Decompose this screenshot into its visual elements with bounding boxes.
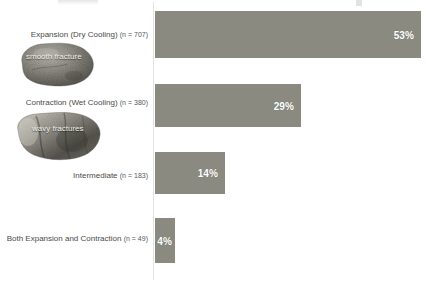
bar-chart: 53% 29% 14% 4% Expansion (Dry Cooling) (… [0,0,426,283]
rock-specimen-photo-wavy-fractures: wavy fractures [12,110,104,162]
category-label-intermediate: Intermediate (n = 183) [73,170,148,181]
bar-value-label: 29% [274,100,294,111]
category-label-both-expansion-and-contraction: Both Expansion and Contraction (n = 49) [7,233,148,244]
bar-expansion-dry-cooling[interactable]: 53% [155,11,421,58]
category-name: Intermediate [73,171,117,180]
category-count: (n = 183) [120,172,148,179]
category-name: Expansion (Dry Cooling) [31,30,118,39]
category-axis-line [153,2,154,280]
category-count: (n = 380) [120,99,148,106]
bar-value-label: 14% [198,168,218,179]
bar-both-expansion-and-contraction[interactable]: 4% [155,218,175,263]
category-name: Both Expansion and Contraction [7,234,122,243]
category-name: Contraction (Wet Cooling) [26,98,118,107]
bar-value-label: 4% [157,235,172,246]
bar-value-label: 53% [394,29,414,40]
rock-specimen-photo-smooth-fracture: smooth fracture [12,40,98,88]
category-label-expansion-dry-cooling: Expansion (Dry Cooling) (n = 707) [31,29,148,40]
cropped-top-artifact [58,0,98,5]
bar-intermediate[interactable]: 14% [155,152,225,194]
bar-contraction-wet-cooling[interactable]: 29% [155,84,301,127]
category-label-contraction-wet-cooling: Contraction (Wet Cooling) (n = 380) [26,97,148,108]
category-count: (n = 49) [124,235,148,242]
category-count: (n = 707) [120,31,148,38]
rock-photo-caption: wavy fractures [32,124,84,133]
rock-photo-caption: smooth fracture [26,52,82,61]
cropped-top-artifact-right [356,0,362,6]
